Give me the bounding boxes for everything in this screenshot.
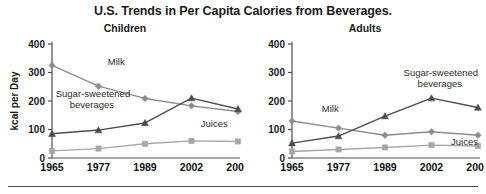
data-point-marker bbox=[142, 141, 147, 146]
data-point-marker bbox=[335, 125, 341, 131]
plot-adults: 010020030040019651977198920022006MilkSug… bbox=[246, 34, 484, 172]
series-annotation-juices: Juices bbox=[451, 136, 478, 147]
panel-title-adults: Adults bbox=[246, 22, 484, 34]
y-tick-label: 200 bbox=[28, 96, 45, 107]
series-annotation-ssb: beverages bbox=[418, 78, 463, 89]
plot-children: 010020030040019651977198920022006kcal pe… bbox=[6, 34, 244, 172]
data-point-marker bbox=[382, 132, 388, 138]
x-tick-label: 1989 bbox=[133, 161, 157, 172]
y-tick-label: 300 bbox=[28, 67, 45, 78]
data-point-marker bbox=[289, 149, 294, 154]
y-tick-label: 400 bbox=[28, 39, 45, 50]
data-point-marker bbox=[235, 139, 240, 144]
data-point-marker bbox=[188, 95, 195, 101]
bottom-divider bbox=[8, 186, 478, 187]
data-point-marker bbox=[142, 95, 148, 101]
series-annotation-ssb: Sugar-sweetened bbox=[404, 67, 478, 78]
series-annotation-ssb: beverages bbox=[70, 99, 115, 110]
series-annotation-milk: Milk bbox=[322, 103, 339, 114]
data-point-marker bbox=[336, 147, 341, 152]
y-tick-label: 400 bbox=[268, 39, 285, 50]
series-annotation-milk: Milk bbox=[108, 56, 125, 67]
y-tick-label: 100 bbox=[268, 124, 285, 135]
x-tick-label: 1977 bbox=[327, 161, 351, 172]
data-point-marker bbox=[49, 148, 54, 153]
data-point-marker bbox=[428, 95, 435, 101]
x-tick-label: 1965 bbox=[280, 161, 304, 172]
data-point-marker bbox=[96, 146, 101, 151]
data-point-marker bbox=[49, 62, 55, 68]
x-tick-label: 1977 bbox=[87, 161, 111, 172]
y-tick-label: 300 bbox=[268, 67, 285, 78]
data-point-marker bbox=[428, 129, 434, 135]
data-point-marker bbox=[429, 143, 434, 148]
panel-adults: Adults 010020030040019651977198920022006… bbox=[246, 22, 484, 172]
data-point-marker bbox=[188, 103, 194, 109]
chart-figure: U.S. Trends in Per Capita Calories from … bbox=[0, 0, 486, 194]
data-point-marker bbox=[382, 145, 387, 150]
y-tick-label: 100 bbox=[28, 124, 45, 135]
chart-title: U.S. Trends in Per Capita Calories from … bbox=[0, 4, 486, 18]
y-axis-label: kcal per Day bbox=[9, 71, 20, 130]
data-point-marker bbox=[289, 118, 295, 124]
x-tick-label: 2006 bbox=[226, 161, 244, 172]
data-point-marker bbox=[189, 138, 194, 143]
panel-title-children: Children bbox=[6, 22, 244, 34]
x-tick-label: 1989 bbox=[373, 161, 397, 172]
y-tick-label: 200 bbox=[268, 96, 285, 107]
series-annotation-ssb: Sugar-sweetened bbox=[56, 88, 130, 99]
x-tick-label: 1965 bbox=[40, 161, 64, 172]
x-tick-label: 2002 bbox=[420, 161, 444, 172]
x-tick-label: 2006 bbox=[466, 161, 484, 172]
panel-children: Children 0100200300400196519771989200220… bbox=[6, 22, 244, 172]
x-tick-label: 2002 bbox=[180, 161, 204, 172]
series-annotation-juices: Juices bbox=[201, 118, 228, 129]
